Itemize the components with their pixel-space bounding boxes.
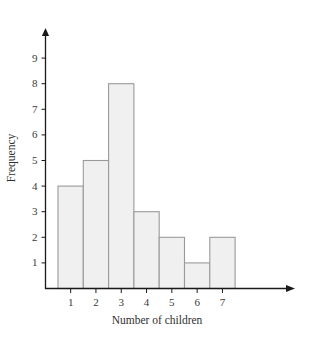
y-tick-label-7: 7 (24, 104, 38, 115)
x-tick-label-6: 6 (190, 297, 204, 308)
y-tick-label-8: 8 (24, 78, 38, 89)
y-tick-label-3: 3 (24, 206, 38, 217)
y-axis-arrow (42, 28, 49, 36)
y-tick-label-1: 1 (24, 257, 38, 268)
y-tick-label-9: 9 (24, 53, 38, 64)
x-axis-title: Number of children (0, 314, 314, 326)
x-axis-arrow (286, 285, 295, 292)
x-tick-label-4: 4 (140, 297, 154, 308)
bar-6 (185, 263, 210, 289)
bar-1 (58, 186, 83, 288)
chart-canvas (0, 0, 314, 341)
y-axis-title: Frequency (5, 118, 17, 198)
y-tick-label-4: 4 (24, 181, 38, 192)
y-tick-label-2: 2 (24, 232, 38, 243)
bar-2 (83, 161, 108, 289)
y-tick-label-6: 6 (24, 129, 38, 140)
bar-5 (159, 237, 184, 288)
x-tick-label-2: 2 (89, 297, 103, 308)
bar-7 (210, 237, 235, 288)
x-tick-label-1: 1 (64, 297, 78, 308)
bar-3 (109, 84, 134, 289)
x-tick-label-7: 7 (215, 297, 229, 308)
x-tick-label-3: 3 (114, 297, 128, 308)
y-tick-label-5: 5 (24, 155, 38, 166)
x-tick-label-5: 5 (165, 297, 179, 308)
histogram-chart: 1234567891234567 Number of children Freq… (0, 0, 314, 341)
bar-4 (134, 212, 159, 289)
